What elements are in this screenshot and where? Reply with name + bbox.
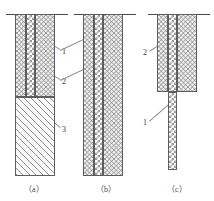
panel-3-core-band-upper [168, 14, 177, 92]
panel-3-callout-label-1: 2 [143, 49, 147, 57]
panel-3-core-band-lower [168, 92, 177, 170]
panel-2-left-soil-band [83, 14, 94, 176]
panel-2-core-band [94, 14, 103, 176]
panel-3-right-soil-band [177, 14, 197, 92]
panel-1-callout-label-3: 3 [62, 126, 66, 134]
panel-1-core-band [26, 14, 35, 97]
panel-3-left-soil-band [157, 14, 168, 92]
panel-1-concrete-pile [15, 97, 55, 176]
panel-3-callout-label-2: 1 [143, 119, 147, 127]
panel-1-left-soil-band [15, 14, 26, 97]
panel-3-caption: （c） [167, 186, 187, 194]
panel-1-right-soil-band [35, 14, 55, 97]
figure-pile-construction-stages: 123（a）（b）21（c） [0, 0, 214, 201]
panel-2-caption: （b） [96, 186, 116, 194]
panel-1-caption: （a） [24, 186, 44, 194]
panel-2-right-soil-band [103, 14, 123, 176]
